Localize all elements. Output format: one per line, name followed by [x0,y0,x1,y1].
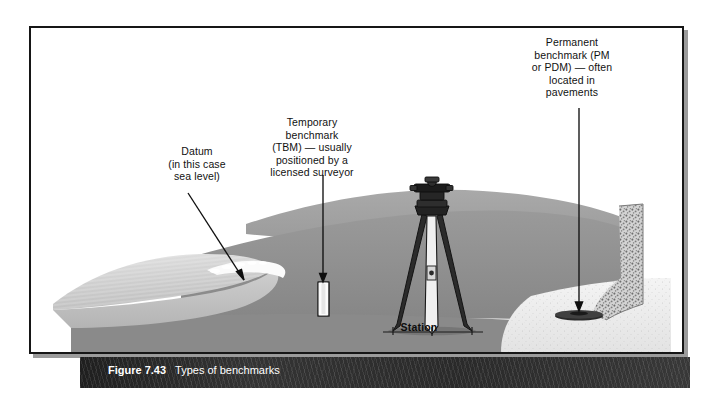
figure-number: Figure 7.43 [108,364,166,376]
label-permanent-benchmark: Permanent benchmark (PM or PDM) — often … [512,36,632,99]
figure-caption-bar: Figure 7.43Types of benchmarks [80,357,690,388]
figure-title: Types of benchmarks [175,364,280,376]
illustration-scene: Datum (in this case sea level) Temporary… [31,28,682,352]
figure-frame: Datum (in this case sea level) Temporary… [29,26,684,354]
figure-caption: Figure 7.43Types of benchmarks [108,364,280,376]
label-station: Station [364,321,474,333]
temporary-benchmark-post [317,281,330,317]
label-temporary-benchmark: Temporary benchmark (TBM) — usually posi… [247,116,377,179]
label-datum: Datum (in this case sea level) [141,145,253,183]
